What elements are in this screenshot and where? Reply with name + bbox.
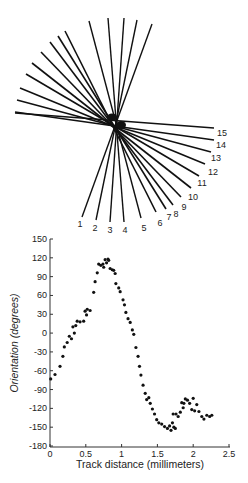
data-point <box>78 320 81 323</box>
data-point <box>138 365 141 368</box>
data-point <box>182 406 185 409</box>
hub-blob <box>107 114 117 121</box>
data-point <box>112 269 115 272</box>
data-point <box>174 427 177 430</box>
data-point <box>149 402 152 405</box>
fan-label-6: 6 <box>157 218 162 228</box>
fan-label-1: 1 <box>77 219 82 229</box>
data-point <box>174 412 177 415</box>
fan-label-4: 4 <box>122 225 127 235</box>
data-point <box>70 337 73 340</box>
data-point <box>76 320 79 323</box>
data-point <box>105 261 108 264</box>
data-point <box>163 425 166 428</box>
fan-label-2: 2 <box>92 223 97 233</box>
data-point <box>197 410 200 413</box>
data-point <box>68 335 71 338</box>
fan-label-11: 11 <box>197 178 206 188</box>
data-point <box>171 421 174 424</box>
fan-label-3: 3 <box>107 225 112 235</box>
x-tick-label: 0 <box>47 449 52 459</box>
data-point <box>131 328 134 331</box>
fan-label-7: 7 <box>166 212 171 222</box>
data-point <box>73 331 76 334</box>
data-point <box>114 282 117 285</box>
data-point <box>157 421 160 424</box>
data-point <box>147 396 150 399</box>
data-point <box>160 422 163 425</box>
data-point <box>102 266 105 269</box>
data-point <box>205 414 208 417</box>
data-point <box>71 325 74 328</box>
data-point <box>151 407 154 410</box>
data-point <box>66 341 69 344</box>
fan-label-13: 13 <box>211 153 221 163</box>
data-point <box>126 317 129 320</box>
data-point <box>182 402 185 405</box>
y-tick-label: -120 <box>29 403 47 413</box>
data-point <box>132 333 135 336</box>
data-point <box>192 397 195 400</box>
data-point <box>114 272 117 275</box>
data-point <box>104 258 107 261</box>
data-point <box>139 374 142 377</box>
data-point <box>202 417 205 420</box>
data-points <box>49 257 213 431</box>
data-point <box>129 321 132 324</box>
data-point <box>193 409 196 412</box>
data-point <box>144 392 147 395</box>
x-tick-label: 2.5 <box>223 449 236 459</box>
fan-label-8: 8 <box>173 209 178 219</box>
data-point <box>155 418 158 421</box>
y-tick-label: 60 <box>37 290 47 300</box>
fan-label-14: 14 <box>216 140 226 150</box>
y-tick-label: 30 <box>37 309 47 319</box>
figure: 123456789101112131415 1501209060300-30-6… <box>0 0 248 483</box>
y-tick-label: 150 <box>32 234 47 244</box>
data-point <box>88 309 91 312</box>
fan-label-10: 10 <box>188 192 198 202</box>
y-axis-title: Orientation (degrees) <box>8 293 20 392</box>
y-tick-label: -30 <box>34 347 47 357</box>
data-point <box>210 414 213 417</box>
y-tick-label: 90 <box>37 272 47 282</box>
data-point <box>190 408 193 411</box>
data-point <box>153 412 156 415</box>
data-point <box>101 262 104 265</box>
fan-label-12: 12 <box>208 167 218 177</box>
y-tick-label: -60 <box>34 366 47 376</box>
data-point <box>141 384 144 387</box>
data-point <box>200 415 203 418</box>
data-point <box>195 403 198 406</box>
data-point <box>92 291 95 294</box>
data-point <box>117 286 120 289</box>
data-point <box>121 298 124 301</box>
data-point <box>94 280 97 283</box>
data-point <box>134 346 137 349</box>
data-point <box>86 308 89 311</box>
data-point <box>136 355 139 358</box>
data-point <box>49 377 52 380</box>
data-point <box>85 313 88 316</box>
x-axis-title: Track distance (millimeters) <box>76 458 204 470</box>
data-point <box>186 399 189 402</box>
data-point <box>61 355 64 358</box>
data-point <box>96 271 99 274</box>
data-point <box>168 424 171 427</box>
y-tick-label: -150 <box>29 422 47 432</box>
fan-label-9: 9 <box>181 202 186 212</box>
hub-blob <box>116 121 126 129</box>
data-point <box>188 402 191 405</box>
data-point <box>53 373 56 376</box>
data-point <box>166 427 169 430</box>
x-axis: 00.511.522.5 <box>47 444 235 459</box>
data-point <box>172 412 175 415</box>
data-point <box>63 345 66 348</box>
fan-line-labels: 123456789101112131415 <box>77 128 227 235</box>
data-point <box>82 320 85 323</box>
data-point <box>169 429 172 432</box>
fan-label-5: 5 <box>141 223 146 233</box>
data-point <box>119 290 122 293</box>
y-axis: 1501209060300-30-60-90-120-150-180 <box>29 234 53 451</box>
data-point <box>179 411 182 414</box>
